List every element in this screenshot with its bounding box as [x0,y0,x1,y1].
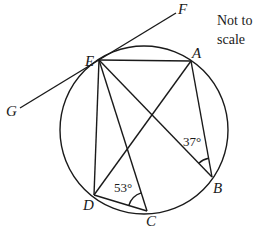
segment-ea [99,60,191,61]
segment-ed [94,60,99,195]
label-b: B [213,180,222,196]
label-e: E [84,53,94,69]
angle-arc-b [199,158,209,163]
label-c: C [146,213,157,227]
label-a: A [191,45,202,61]
circle-diagram: E A B C D F G 37° 53° Not to scale [0,0,260,227]
not-to-scale-line1: Not to [217,13,252,28]
segment-eb [99,60,212,177]
segment-ad [94,61,191,195]
angle-value-c: 53° [114,180,132,195]
angle-value-b: 37° [183,134,201,149]
label-f: F [177,1,188,17]
not-to-scale-line2: scale [217,32,245,47]
label-g: G [6,103,17,119]
label-d: D [82,197,94,213]
segment-ab [191,61,212,177]
